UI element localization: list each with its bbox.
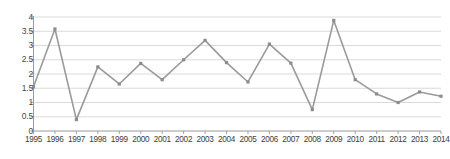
x-tick-label: 2014 <box>432 136 449 144</box>
x-tick-label: 1996 <box>46 136 63 144</box>
x-tick-label: 2011 <box>368 136 384 144</box>
x-tick-label: 2012 <box>390 136 407 144</box>
x-tick-label: 2007 <box>282 136 299 144</box>
x-tick-label: 1999 <box>111 136 128 144</box>
x-tick-label: 2006 <box>261 136 278 144</box>
x-tick-label: 2013 <box>411 136 428 144</box>
x-tick-label: 2000 <box>132 136 149 144</box>
x-tick-label: 2008 <box>304 136 321 144</box>
x-tick-label: 2003 <box>197 136 214 144</box>
x-tick-label: 2010 <box>347 136 364 144</box>
x-tick-label: 2002 <box>175 136 192 144</box>
x-tick-label: 2005 <box>239 136 256 144</box>
x-tick-label: 2009 <box>325 136 342 144</box>
x-tick-label: 1998 <box>89 136 106 144</box>
x-tick-label: 1997 <box>68 136 85 144</box>
x-tick-label: 1995 <box>25 136 42 144</box>
x-tick-label: 2001 <box>154 136 171 144</box>
x-tick-label: 2004 <box>218 136 235 144</box>
